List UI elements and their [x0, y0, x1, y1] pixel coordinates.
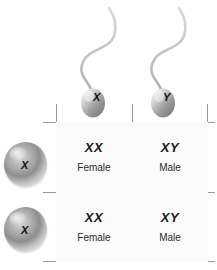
punnett-cell-bottom-left[interactable]: XX Female	[56, 192, 132, 262]
sperm-x-icon	[69, 6, 131, 118]
genotype-label: XX	[85, 141, 103, 154]
phenotype-label: Female	[77, 233, 110, 243]
genotype-label: XY	[161, 211, 179, 224]
phenotype-label: Male	[159, 233, 181, 243]
phenotype-label: Female	[77, 163, 110, 173]
egg-x-top-icon	[4, 142, 47, 187]
egg-x-bottom-icon	[4, 207, 47, 252]
punnett-cell-bottom-right[interactable]: XY Male	[132, 192, 208, 262]
punnett-square-diagram: XX Female XY Male XX Female XY Male	[0, 0, 217, 270]
phenotype-label: Male	[159, 163, 181, 173]
punnett-cell-top-right[interactable]: XY Male	[132, 122, 208, 192]
sperm-y-icon	[139, 6, 201, 118]
genotype-label: XX	[85, 211, 103, 224]
punnett-cell-top-left[interactable]: XX Female	[56, 122, 132, 192]
genotype-label: XY	[161, 141, 179, 154]
